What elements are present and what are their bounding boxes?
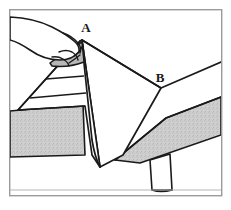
figure-container: A B <box>0 0 231 210</box>
label-b: B <box>156 70 165 85</box>
bedsheet-corner-diagram: A B <box>0 0 231 210</box>
bed-leg <box>150 154 172 190</box>
mattress-side-band-left <box>10 104 85 157</box>
label-a: A <box>81 20 91 35</box>
